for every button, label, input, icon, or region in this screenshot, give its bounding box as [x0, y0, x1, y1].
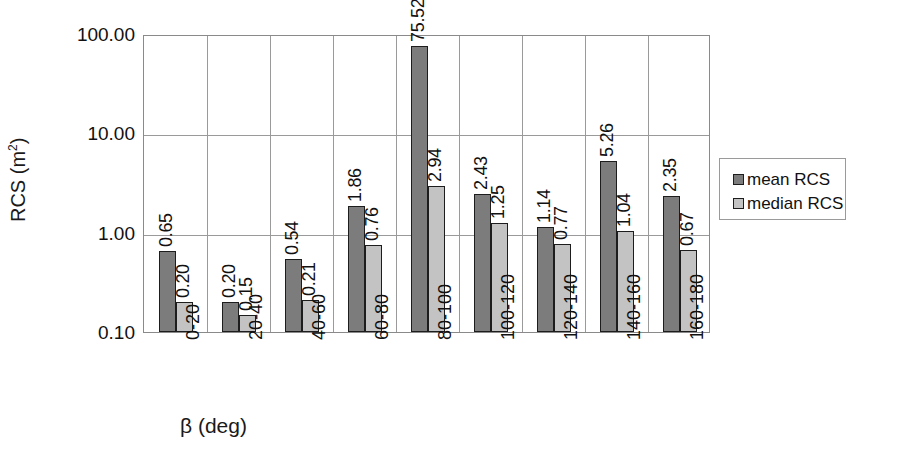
bar-value-label: 2.43 — [472, 157, 490, 191]
bar-group: 0.540.21 — [285, 36, 319, 332]
y-axis-title-tail: ) — [7, 138, 29, 145]
y-axis-title-main: RCS (m — [7, 151, 29, 222]
bar-value-label: 0.67 — [678, 212, 696, 246]
x-axis-title: β (deg) — [0, 414, 917, 438]
x-axis-tick-label: 0-20 — [184, 304, 202, 340]
rcs-bar-chart: RCS (m2) 100.0010.001.000.10 0.650.200.2… — [0, 0, 917, 456]
bar-value-label: 2.94 — [426, 148, 444, 182]
gridline-vertical — [333, 36, 334, 332]
bar-value-label: 1.25 — [489, 185, 507, 219]
gridline-vertical — [648, 36, 649, 332]
x-axis-tick-label: 160-180 — [688, 274, 706, 340]
bar-value-label: 0.54 — [283, 221, 301, 255]
x-axis-tick-label: 120-140 — [562, 274, 580, 340]
bar-group: 1.860.76 — [348, 36, 382, 332]
legend-item-median-rcs[interactable]: median RCS — [733, 192, 845, 214]
legend-swatch-median-icon — [733, 198, 744, 209]
bar-value-label: 0.76 — [363, 207, 381, 241]
bar-value-label: 75.52 — [409, 0, 427, 42]
gridline-vertical — [270, 36, 271, 332]
legend-item-mean-rcs[interactable]: mean RCS — [733, 168, 845, 190]
gridline-vertical — [522, 36, 523, 332]
y-axis-tick-label: 100.00 — [55, 25, 135, 44]
bar-value-label: 0.65 — [157, 213, 175, 247]
legend-label-mean: mean RCS — [747, 171, 830, 188]
x-axis-tick-label: 140-160 — [625, 274, 643, 340]
gridline-vertical — [396, 36, 397, 332]
bar-value-label: 1.86 — [346, 168, 364, 202]
x-axis-title-text: β (deg) — [180, 414, 247, 437]
y-axis-tick-label: 0.10 — [55, 323, 135, 342]
x-axis-tick-label: 40-60 — [310, 294, 328, 340]
bar-value-label: 0.77 — [552, 206, 570, 240]
y-axis-tick-label: 10.00 — [55, 124, 135, 143]
bar-mean-rcs[interactable] — [600, 161, 617, 332]
bar-group: 0.200.15 — [222, 36, 256, 332]
bar-value-label: 0.21 — [300, 262, 318, 296]
bar-mean-rcs[interactable] — [537, 227, 554, 332]
x-axis-tick-label: 100-120 — [499, 274, 517, 340]
bar-value-label: 0.20 — [220, 264, 238, 298]
y-axis-title: RCS (m2) — [6, 100, 30, 260]
gridline-vertical — [207, 36, 208, 332]
x-axis-tick-label: 80-100 — [436, 284, 454, 340]
bar-value-label: 0.20 — [174, 264, 192, 298]
y-axis-tick-labels: 100.0010.001.000.10 — [50, 0, 135, 456]
gridline-vertical — [459, 36, 460, 332]
x-axis-tick-label: 60-80 — [373, 294, 391, 340]
y-axis-title-superscript: 2 — [6, 144, 20, 151]
bar-group: 0.650.20 — [159, 36, 193, 332]
bar-value-label: 5.26 — [598, 123, 616, 157]
x-axis-tick-label: 20-40 — [247, 294, 265, 340]
bar-value-label: 1.14 — [535, 189, 553, 223]
y-axis-tick-label: 1.00 — [55, 224, 135, 243]
legend-swatch-mean-icon — [733, 174, 744, 185]
bar-value-label: 1.04 — [615, 193, 633, 227]
bar-value-label: 2.35 — [661, 158, 679, 192]
gridline-vertical — [585, 36, 586, 332]
bar-mean-rcs[interactable] — [411, 46, 428, 332]
chart-legend: mean RCS median RCS — [719, 158, 846, 220]
legend-label-median: median RCS — [747, 195, 843, 212]
